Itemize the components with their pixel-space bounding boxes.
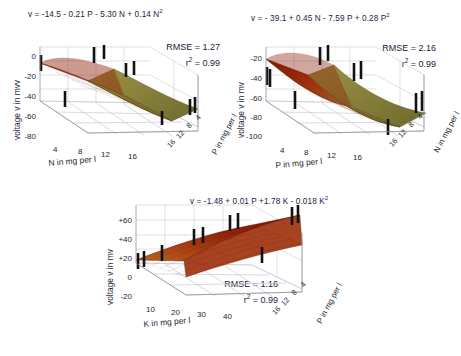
panel-3-y-tick-3: 0 [104,273,132,282]
panel-1-equation-exponent: 2 [159,8,162,14]
panel-3-y-tick-0: +60 [104,216,132,225]
panel-2-y-tick-4: -100 [232,132,262,141]
panel-1-surface-graphic [38,45,218,155]
panel-1-x-axis-title: N in mg per l [48,154,96,168]
panel-3-y-tick-4: -20 [104,292,132,301]
panel-2-y-tick-2: -60 [232,94,262,103]
panel-1-equation: v = -14.5 - 0.21 P - 5.30 N + 0.14 N2 [28,8,163,19]
panel-2-surface-graphic [264,45,444,155]
panel-2-y-axis-title: voltage v in mv [236,82,246,138]
panel-2-equation: v = - 39.1 + 0.45 N - 7.59 P + 0.28 P2 [251,12,390,23]
panel-1-y-tick-3: -60 [10,112,36,121]
panel-3-x-tick-0: 10 [146,305,155,314]
panel-1-x-tick-0: 4 [53,145,57,154]
panel-2-x-tick-1: 8 [304,148,308,157]
panel-2-y-tick-3: -80 [232,113,262,122]
panel-3-x-tick-2: 30 [197,310,206,319]
panel-2-equation-exponent: 2 [386,12,389,18]
panel-1-x-tick-2: 12 [101,150,110,159]
panel-2-x-tick-0: 4 [280,146,284,155]
panel-3-x-axis-title: K in mg per l [143,315,191,329]
panel-3-equation-exponent: 2 [325,195,328,201]
panel-2-x-tick-2: 12 [327,151,336,160]
surface-panel-2: v = - 39.1 + 0.45 N - 7.59 P + 0.28 P2 R… [228,0,448,180]
surface-panel-3: v = -1.48 + 0.01 P +1.78 K - 0.018 K2 RM… [98,175,356,356]
panel-1-x-tick-3: 16 [128,152,137,161]
panel-3-x-tick-3: 40 [223,312,232,321]
panel-3-y-tick-1: +40 [104,235,132,244]
panel-1-y-axis-title: voltage v in mvv [12,80,22,140]
panel-1-y-tick-0: 0 [10,52,36,61]
panel-3-y-tick-2: +20 [104,254,132,263]
panel-2-y-tick-1: -40 [232,74,262,83]
panel-2-x-tick-3: 16 [353,153,362,162]
panel-1-y-tick-4: -80 [10,132,36,141]
panel-3-surface-graphic [134,203,324,315]
panel-2-y-tick-0: -20 [232,54,262,63]
panel-1-y-tick-2: -40 [10,92,36,101]
panel-2-x-axis-title: P in mg per l [275,156,323,170]
surface-panel-1: v = -14.5 - 0.21 P - 5.30 N + 0.14 N2 RM… [0,0,230,180]
panel-1-y-tick-1: -20 [10,72,36,81]
